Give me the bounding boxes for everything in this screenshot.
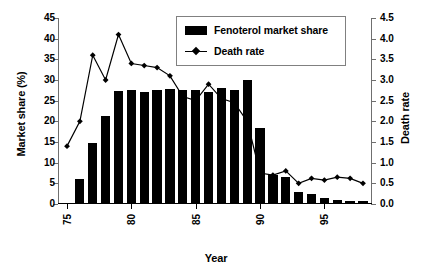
data-point-marker bbox=[90, 52, 96, 58]
data-point-marker bbox=[167, 73, 173, 79]
y-axis-right-tick bbox=[371, 204, 376, 205]
data-point-marker bbox=[270, 172, 276, 178]
y-axis-left-tick-label: 0 bbox=[15, 199, 55, 209]
y-axis-left-tick-label: 25 bbox=[15, 96, 55, 106]
data-point-marker bbox=[321, 177, 327, 183]
y-axis-left-tick-label: 40 bbox=[15, 34, 55, 44]
y-axis-right-tick-label: 2.0 bbox=[380, 116, 420, 126]
legend-item-market-share: Fenoterol market share bbox=[185, 22, 328, 38]
y-axis-left-tick-label: 10 bbox=[15, 158, 55, 168]
x-axis-tick-label: 75 bbox=[62, 207, 73, 233]
data-point-marker bbox=[360, 180, 366, 186]
data-point-marker bbox=[116, 32, 122, 38]
x-axis-tick-label: 90 bbox=[255, 207, 266, 233]
legend-label-market-share: Fenoterol market share bbox=[214, 24, 328, 36]
y-axis-left-tick-label: 5 bbox=[15, 178, 55, 188]
y-axis-right-tick-label: 3.0 bbox=[380, 75, 420, 85]
data-point-marker bbox=[64, 143, 70, 149]
y-axis-left-tick-label: 35 bbox=[15, 54, 55, 64]
data-point-marker bbox=[103, 77, 109, 83]
data-point-marker bbox=[309, 175, 315, 181]
x-axis-title: Year bbox=[0, 252, 432, 264]
line-diamond-icon bbox=[185, 47, 207, 56]
y-axis-right-tick-label: 1.5 bbox=[380, 137, 420, 147]
x-axis-tick-label: 80 bbox=[126, 207, 137, 233]
legend-item-death-rate: Death rate bbox=[185, 43, 264, 59]
chart-figure: Market share (%) Death rate Year 0510152… bbox=[0, 0, 432, 272]
data-point-marker bbox=[128, 61, 134, 67]
x-axis-tick-label: 95 bbox=[319, 207, 330, 233]
data-point-marker bbox=[180, 94, 186, 100]
y-axis-right-tick-label: 0.5 bbox=[380, 178, 420, 188]
y-axis-right-tick-label: 4.0 bbox=[380, 34, 420, 44]
y-axis-left-tick-label: 30 bbox=[15, 75, 55, 85]
x-axis-tick-label: 85 bbox=[190, 207, 201, 233]
y-axis-right-tick-label: 1.0 bbox=[380, 158, 420, 168]
y-axis-left-tick-label: 20 bbox=[15, 116, 55, 126]
y-axis-right-tick-label: 0.0 bbox=[380, 199, 420, 209]
data-point-marker bbox=[141, 63, 147, 69]
y-axis-right-tick-label: 3.5 bbox=[380, 54, 420, 64]
data-point-marker bbox=[154, 65, 160, 71]
y-axis-left-tick-label: 15 bbox=[15, 137, 55, 147]
legend-label-death-rate: Death rate bbox=[214, 45, 264, 57]
data-point-marker bbox=[334, 174, 340, 180]
bar-swatch-icon bbox=[185, 26, 207, 35]
legend: Fenoterol market share Death rate bbox=[176, 16, 346, 66]
y-axis-right-tick-label: 4.5 bbox=[380, 13, 420, 23]
data-point-marker bbox=[347, 175, 353, 181]
data-point-marker bbox=[257, 170, 263, 176]
y-axis-right-tick-label: 2.5 bbox=[380, 96, 420, 106]
data-point-marker bbox=[77, 118, 83, 124]
y-axis-left-tick-label: 45 bbox=[15, 13, 55, 23]
